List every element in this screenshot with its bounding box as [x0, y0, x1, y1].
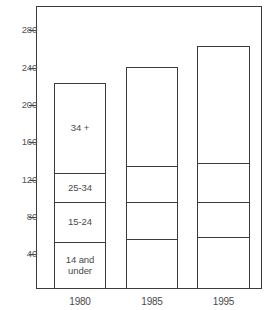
- bar-1980[interactable]: 34 + 25-34 15-24 14 and under: [54, 83, 106, 288]
- bar-1980-label-14-under-line2: under: [55, 265, 105, 276]
- y-axis-tick-mark-80: [29, 217, 37, 218]
- bar-1985-divider-15-24: [127, 202, 177, 203]
- bar-1980-divider-25-34: [55, 173, 105, 174]
- y-axis-tick-mark-160: [29, 142, 37, 143]
- bar-1985[interactable]: [126, 67, 178, 288]
- stacked-bar-chart: 280 240 200 160 120 80 40 34 + 25-34 15-…: [0, 0, 271, 310]
- bar-1995[interactable]: [197, 46, 250, 288]
- bar-1980-label-14-under-line1: 14 and: [55, 254, 105, 265]
- bar-1980-divider-14-under: [55, 242, 105, 243]
- y-axis-tick-mark-40: [29, 254, 37, 255]
- bar-1995-divider-14-under: [198, 237, 249, 238]
- y-axis-tick-mark-280: [29, 30, 37, 31]
- x-axis-label-1980: 1980: [54, 296, 106, 307]
- y-axis-tick-mark-240: [29, 68, 37, 69]
- bar-1980-label-34-plus: 34 +: [55, 122, 105, 133]
- x-axis-label-1985: 1985: [126, 296, 178, 307]
- y-axis-tick-mark-120: [29, 180, 37, 181]
- bar-1995-divider-15-24: [198, 202, 249, 203]
- x-axis-label-1995: 1995: [197, 296, 250, 307]
- bar-1985-divider-25-34: [127, 166, 177, 167]
- y-axis-tick-mark-200: [29, 105, 37, 106]
- bar-1980-label-15-24: 15-24: [55, 216, 105, 227]
- bar-1980-divider-15-24: [55, 202, 105, 203]
- bar-1985-divider-14-under: [127, 239, 177, 240]
- bar-1980-label-25-34: 25-34: [55, 182, 105, 193]
- bar-1995-divider-25-34: [198, 163, 249, 164]
